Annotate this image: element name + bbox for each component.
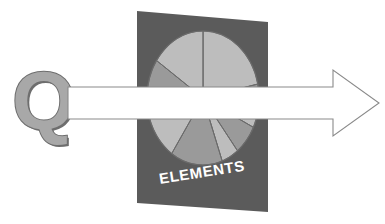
diagram-svg: ELEMENTS Q Q [0,0,385,224]
illustration-canvas: ELEMENTS Q Q Q ELEMENTS ELEMENTS Letter … [0,0,385,224]
letter-q-glyph: Q [12,55,76,146]
